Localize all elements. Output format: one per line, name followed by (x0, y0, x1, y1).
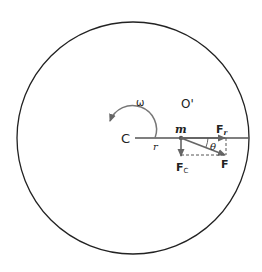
angle-arc (206, 138, 208, 147)
mass-label: m (175, 123, 187, 136)
origin-prime-label: O' (181, 97, 194, 111)
radial-force-label: Fr (216, 123, 229, 137)
rotation-arrow-icon (110, 105, 157, 138)
angle-label: θ (210, 141, 216, 152)
center-label: C (121, 131, 130, 146)
radius-label: r (153, 141, 159, 152)
resultant-force-label: F (221, 158, 229, 171)
resultant-force-vector (181, 138, 225, 155)
coriolis-force-label: FC (176, 161, 189, 175)
omega-label: ω (136, 97, 144, 108)
diagram-canvas: ω O' C r m Fr θ FC F (0, 0, 262, 272)
